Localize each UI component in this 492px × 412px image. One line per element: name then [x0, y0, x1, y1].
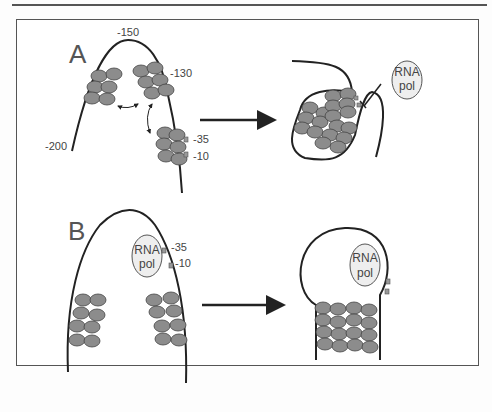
- diagram-canvas: A -150 -130 -200 -35 -10: [0, 0, 492, 412]
- panel-b-label: B: [68, 216, 85, 246]
- exchange-arrow-horizontal: [118, 104, 138, 108]
- svg-text:pol: pol: [357, 266, 373, 280]
- rna-polymerase-b-right: RNA pol: [350, 244, 380, 286]
- rna-polymerase-a: RNA pol: [392, 61, 422, 99]
- rna-pol-a-line1: RNA: [394, 65, 419, 79]
- svg-text:pol: pol: [139, 257, 155, 271]
- dna-loop-a: [72, 40, 182, 193]
- label-minus-130: -130: [170, 67, 192, 79]
- label-minus-150: -150: [117, 26, 139, 38]
- nucleosome-cluster-b-left: [69, 294, 106, 347]
- rna-pol-a-line2: pol: [399, 79, 415, 93]
- svg-text:RNA: RNA: [352, 251, 377, 265]
- nucleosome-cluster-right: [133, 62, 174, 99]
- nucleosome-cluster-left: [84, 68, 122, 105]
- label-minus-10-b: -10: [175, 257, 191, 269]
- rna-polymerase-b-left: RNA pol: [132, 235, 162, 277]
- label-minus-35-a: -35: [193, 133, 209, 145]
- label-minus-10-a: -10: [193, 150, 209, 162]
- panel-b: B -35 -10 RNA pol: [68, 210, 390, 383]
- panel-a-label: A: [69, 39, 87, 69]
- label-minus-200: -200: [45, 140, 67, 152]
- panel-a: A -150 -130 -200 -35 -10: [45, 26, 422, 193]
- nucleosome-cluster-b-compact: [315, 302, 378, 353]
- label-minus-35-b: -35: [171, 241, 187, 253]
- dna-loop-b-open: [301, 228, 388, 360]
- exchange-arrow-vertical: [147, 104, 152, 133]
- nucleosome-cluster-promoter: [156, 127, 188, 165]
- svg-text:RNA: RNA: [134, 243, 159, 257]
